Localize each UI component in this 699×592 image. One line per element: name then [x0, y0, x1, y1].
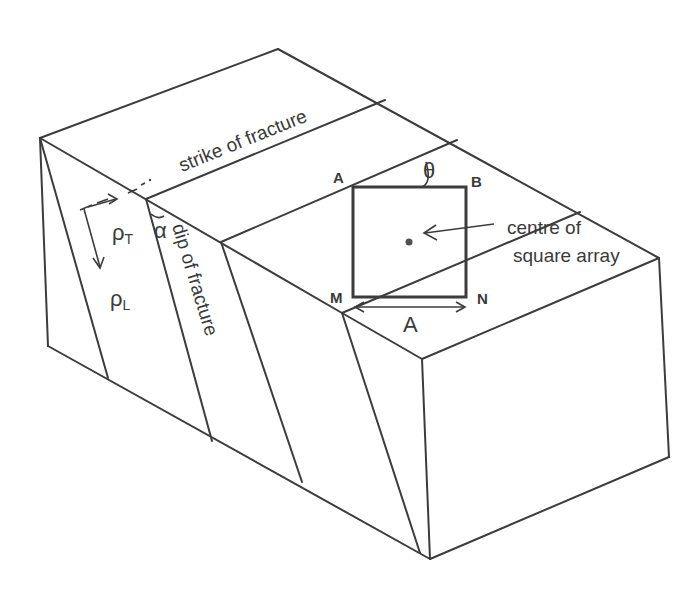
corner-b-label: B: [471, 173, 482, 190]
strike-dashed-extension: [80, 179, 151, 210]
block-diagram: strike of fracture dip of fracture ρT ρL…: [0, 0, 699, 592]
strike-lines: [146, 100, 580, 313]
rho-l-symbol: ρL: [110, 286, 131, 313]
array-centre-dot: [406, 239, 413, 246]
centre-label-line2: square array: [513, 245, 620, 266]
corner-a-label: A: [333, 169, 344, 186]
corner-m-label: M: [330, 289, 343, 306]
block-outline: [40, 49, 669, 559]
square-array: [353, 187, 466, 297]
rho-t-symbol: ρT: [112, 220, 134, 247]
centre-label-line1: centre of: [507, 217, 582, 238]
corner-n-label: N: [477, 290, 488, 307]
spacing-label: A: [403, 312, 418, 337]
dip-lines: [40, 138, 420, 553]
rho-l-arrow: [84, 209, 104, 268]
centre-pointer-arrow: [424, 224, 494, 240]
spacing-arrow: [355, 302, 465, 312]
theta-symbol: θ: [423, 158, 435, 183]
alpha-symbol: α: [154, 218, 167, 243]
